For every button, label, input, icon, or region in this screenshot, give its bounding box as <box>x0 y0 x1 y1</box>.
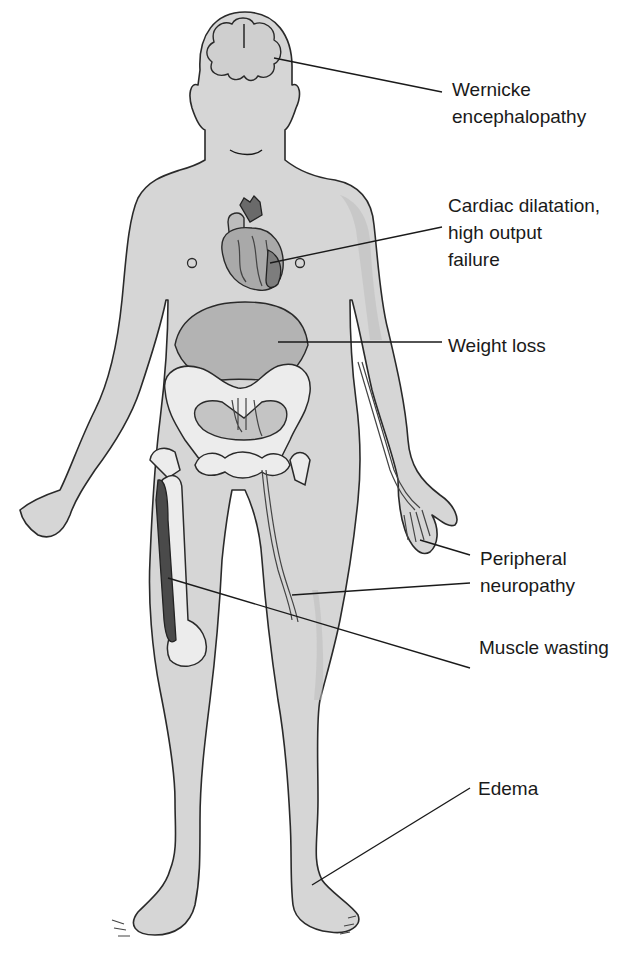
label-line: Weight loss <box>448 332 546 359</box>
body-illustration <box>0 0 631 965</box>
label-edema: Edema <box>478 775 538 802</box>
label-peripheral-neuropathy: Peripheral neuropathy <box>480 545 575 599</box>
label-line: Peripheral <box>480 545 575 572</box>
label-line: Edema <box>478 775 538 802</box>
brain-icon <box>207 18 281 81</box>
left-toes <box>112 920 130 936</box>
label-line: encephalopathy <box>452 103 586 130</box>
label-line: high output <box>448 219 600 246</box>
label-line: Muscle wasting <box>479 634 609 661</box>
label-line: Cardiac dilatation, <box>448 192 600 219</box>
label-line: neuropathy <box>480 572 575 599</box>
label-line: failure <box>448 246 600 273</box>
label-muscle-wasting: Muscle wasting <box>479 634 609 661</box>
label-weight-loss: Weight loss <box>448 332 546 359</box>
label-cardiac-dilatation: Cardiac dilatation, high output failure <box>448 192 600 273</box>
label-line: Wernicke <box>452 76 586 103</box>
label-wernicke-encephalopathy: Wernicke encephalopathy <box>452 76 586 130</box>
